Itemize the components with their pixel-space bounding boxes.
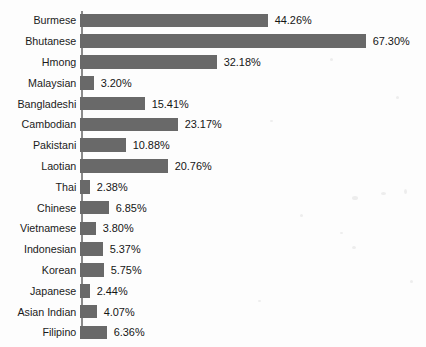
category-label: Bhutanese: [6, 35, 80, 47]
bar-row: Burmese44.26%: [0, 10, 426, 31]
category-label: Indonesian: [6, 243, 80, 255]
category-label: Laotian: [6, 160, 80, 172]
bar: [80, 242, 103, 256]
bar-value-label: 23.17%: [178, 118, 222, 130]
bar: [80, 284, 90, 298]
bar: [80, 326, 107, 340]
bar-track: 44.26%: [80, 10, 426, 31]
bar-value-label: 2.44%: [90, 285, 128, 297]
bar-value-label: 6.85%: [109, 202, 147, 214]
bar-track: 2.38%: [80, 176, 426, 197]
bar-track: 23.17%: [80, 114, 426, 135]
bar-value-label: 5.75%: [104, 264, 142, 276]
bar-value-label: 10.88%: [126, 139, 170, 151]
category-label: Malaysian: [6, 77, 80, 89]
bar-value-label: 2.38%: [90, 181, 128, 193]
bar-track: 6.36%: [80, 322, 426, 343]
bar: [80, 222, 96, 236]
category-label: Asian Indian: [6, 306, 80, 318]
category-label: Korean: [6, 264, 80, 276]
plot-area: Burmese44.26%Bhutanese67.30%Hmong32.18%M…: [0, 7, 426, 339]
bar: [80, 34, 366, 48]
bar-row: Korean5.75%: [0, 260, 426, 281]
category-label: Bangladeshi: [6, 98, 80, 110]
bar-value-label: 15.41%: [145, 98, 189, 110]
bar-track: 2.44%: [80, 280, 426, 301]
bar: [80, 263, 104, 277]
bar: [80, 138, 126, 152]
category-label: Burmese: [6, 14, 80, 26]
bar-value-label: 6.36%: [107, 326, 145, 338]
bar: [80, 159, 168, 173]
category-label: Chinese: [6, 202, 80, 214]
bar-track: 20.76%: [80, 156, 426, 177]
category-label: Thai: [6, 181, 80, 193]
bar-row: Bangladeshi15.41%: [0, 93, 426, 114]
bar-chart-figure: Burmese44.26%Bhutanese67.30%Hmong32.18%M…: [0, 0, 426, 347]
bar-track: 6.85%: [80, 197, 426, 218]
bar-track: 32.18%: [80, 52, 426, 73]
bar-track: 4.07%: [80, 301, 426, 322]
bar-row: Bhutanese67.30%: [0, 31, 426, 52]
bar: [80, 76, 94, 90]
bar-row: Malaysian3.20%: [0, 72, 426, 93]
bar-row: Thai2.38%: [0, 176, 426, 197]
bar-value-label: 5.37%: [103, 243, 141, 255]
bar-row: Hmong32.18%: [0, 52, 426, 73]
bar-track: 3.80%: [80, 218, 426, 239]
bar-row: Laotian20.76%: [0, 156, 426, 177]
bar: [80, 118, 178, 132]
bar-row: Pakistani10.88%: [0, 135, 426, 156]
bar-track: 3.20%: [80, 72, 426, 93]
bar: [80, 55, 217, 69]
bar-value-label: 20.76%: [168, 160, 212, 172]
bar: [80, 14, 268, 28]
cropped-chart-title: [0, 0, 426, 7]
bar-track: 5.75%: [80, 260, 426, 281]
bar-row: Chinese6.85%: [0, 197, 426, 218]
bar: [80, 97, 145, 111]
bar-row: Vietnamese3.80%: [0, 218, 426, 239]
category-label: Hmong: [6, 56, 80, 68]
category-label: Japanese: [6, 285, 80, 297]
category-label: Vietnamese: [6, 222, 80, 234]
bar: [80, 305, 97, 319]
bar-row: Filipino6.36%: [0, 322, 426, 343]
bar-value-label: 4.07%: [97, 306, 135, 318]
bar-track: 15.41%: [80, 93, 426, 114]
bar-value-label: 3.80%: [96, 222, 134, 234]
bar-track: 5.37%: [80, 239, 426, 260]
bar-row: Japanese2.44%: [0, 280, 426, 301]
bar-track: 10.88%: [80, 135, 426, 156]
bar-value-label: 3.20%: [94, 77, 132, 89]
bar-value-label: 32.18%: [217, 56, 261, 68]
bar-row: Asian Indian4.07%: [0, 301, 426, 322]
category-label: Pakistani: [6, 139, 80, 151]
bar-row: Cambodian23.17%: [0, 114, 426, 135]
bar: [80, 201, 109, 215]
category-label: Cambodian: [6, 118, 80, 130]
bar: [80, 180, 90, 194]
bar-value-label: 44.26%: [268, 14, 312, 26]
bar-track: 67.30%: [80, 31, 426, 52]
category-label: Filipino: [6, 326, 80, 338]
bar-row: Indonesian5.37%: [0, 239, 426, 260]
bar-value-label: 67.30%: [366, 35, 410, 47]
